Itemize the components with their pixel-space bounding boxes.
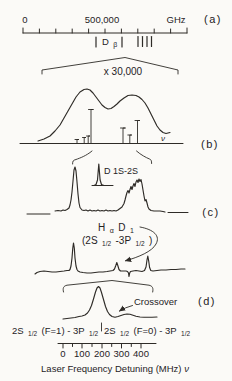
transition-left-label: 2S 1/2 (F=1) - 3P 1/2 <box>12 320 98 340</box>
inset-1s-2s: D 1S-2S <box>92 164 138 186</box>
axis-d-title-text: Laser Frequency Detuning (MHz) <box>41 363 184 374</box>
axis-d-tick-label: 0 <box>60 348 65 359</box>
sub-part: 1/2 <box>120 330 129 337</box>
panel-a: 0 500,000 GHz (a) D β <box>22 13 222 49</box>
fine-structure-stick <box>75 140 79 144</box>
h-alpha-callout: H α D 1 (2S 1/2 -3P 1/2 ) <box>82 217 157 261</box>
d-main: D <box>118 222 125 233</box>
axis-d-tick-label: 300 <box>114 348 130 359</box>
axis-d-tick-label: 200 <box>94 348 110 359</box>
axis-d-title-nu: ν <box>184 363 189 374</box>
fine-structure-stick <box>135 121 140 144</box>
expansion-brackets-b-c <box>73 151 152 164</box>
fine-structure-stick <box>89 110 94 144</box>
fine-structure-stick <box>121 128 126 143</box>
panel-b: ν (b) <box>20 89 219 150</box>
axis-a-500000-label: 500,000 <box>85 14 119 25</box>
part: ) <box>149 235 152 246</box>
axis-d-tick-label: 100 <box>74 348 90 359</box>
expansion-bracket-right <box>137 151 152 164</box>
fine-structure-stick <box>87 136 91 143</box>
panel-b-label: (b) <box>201 138 219 150</box>
h-alpha-spectrum <box>35 243 185 277</box>
expansion-bracket-to-d <box>63 281 153 293</box>
part: (F=0) - 3P <box>134 325 177 336</box>
axis-a-unit-label: GHz <box>167 14 186 25</box>
inset-trace <box>94 164 104 186</box>
panel-c: D 1S-2S (c) <box>27 164 220 218</box>
part: 2S <box>12 325 24 336</box>
fine-structure-stick <box>83 138 87 144</box>
d-beta-main: D <box>102 36 109 47</box>
transition-right-label: 2S 1/2 (F=0) - 3P 1/2 <box>104 320 190 340</box>
sub-part: 1/2 <box>181 330 190 337</box>
fine-structure-stick <box>128 135 132 143</box>
magnification-label: x 30,000 <box>104 66 143 77</box>
part: -3P <box>116 235 132 246</box>
d-beta-sub: β <box>113 41 117 49</box>
h-alpha-line1: H α D 1 <box>98 217 134 236</box>
panel-a-label: (a) <box>204 13 222 25</box>
figure-container: 0 500,000 GHz (a) D β x 30,000 ν (b) <box>0 0 232 381</box>
sub-part: 1/2 <box>28 330 37 337</box>
inset-label: D 1S-2S <box>104 166 138 176</box>
panel-c-label: (c) <box>202 206 219 218</box>
panel-d-label: (d) <box>198 295 216 307</box>
sub-part: 1/2 <box>89 330 98 337</box>
part: 2S <box>104 325 116 336</box>
crossover-arrow <box>120 306 133 312</box>
h-alpha-trace <box>35 243 185 277</box>
crossover-label: Crossover <box>134 296 177 307</box>
frequency-axis-a <box>23 28 187 33</box>
axis-a-zero-label: 0 <box>22 14 27 25</box>
magnification-bracket: x 30,000 <box>42 58 178 78</box>
part: (F=1) - 3P <box>42 325 85 336</box>
axis-d-title: Laser Frequency Detuning (MHz) ν <box>41 363 189 374</box>
spectroscopy-figure: 0 500,000 GHz (a) D β x 30,000 ν (b) <box>0 0 232 381</box>
panel-d: Crossover (d) 2S 1/2 (F=1) - 3P 1/2 2S 1… <box>12 287 216 374</box>
sub-part: 1/2 <box>136 240 145 247</box>
doppler-profile-trace <box>38 89 170 141</box>
axis-d-tick-label: 400 <box>133 348 149 359</box>
expansion-bracket-left <box>73 151 92 164</box>
nu-axis-label-b: ν <box>161 134 165 143</box>
part: (2S <box>82 235 98 246</box>
d-beta-marker-label: D β <box>102 31 117 49</box>
sub-part: 1/2 <box>102 240 111 247</box>
